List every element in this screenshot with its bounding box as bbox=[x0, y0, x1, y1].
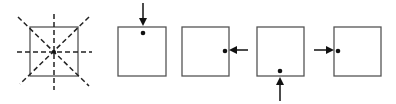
from-right-panel bbox=[182, 27, 248, 76]
contact-dot bbox=[278, 69, 283, 74]
diagram-canvas bbox=[0, 0, 396, 104]
square-5 bbox=[334, 27, 381, 76]
square-4 bbox=[257, 27, 304, 76]
symmetry-panel bbox=[17, 14, 92, 90]
center-dot bbox=[52, 50, 56, 54]
from-left-panel bbox=[314, 27, 381, 76]
contact-dot bbox=[223, 49, 228, 54]
contact-dot bbox=[141, 31, 146, 36]
from-bottom-panel bbox=[257, 27, 304, 101]
from-top-panel bbox=[118, 3, 166, 76]
contact-dot bbox=[336, 49, 341, 54]
square-3 bbox=[182, 27, 229, 76]
